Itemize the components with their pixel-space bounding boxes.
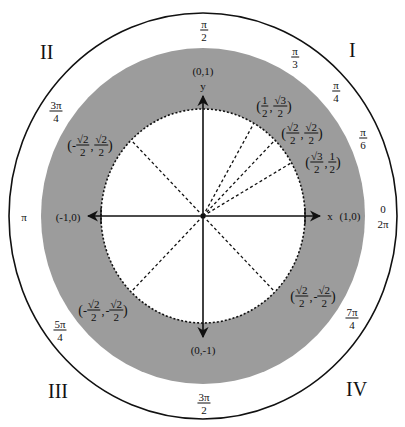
angle-3pi-over-2: 3π 2 — [197, 391, 210, 416]
origin-dot — [201, 214, 206, 219]
x-numerator: √2 — [286, 121, 300, 134]
x-denominator: 2 — [314, 163, 320, 175]
coord-45-deg: ( √22 , √22 ) — [281, 121, 322, 146]
x-denominator: 2 — [299, 297, 305, 309]
y-numerator: √2 — [95, 133, 109, 146]
angle-numerator: 3π — [49, 99, 62, 112]
coord-30-deg: ( √32 , 12 ) — [305, 150, 340, 175]
angle-7pi-over-4: 7π 4 — [345, 306, 358, 331]
angle-denominator: 4 — [57, 331, 63, 343]
x-numerator: √2 — [87, 298, 101, 311]
angle-numerator: π — [332, 79, 340, 92]
quadrant-label-iv: IV — [346, 379, 367, 399]
x-denominator: 2 — [290, 134, 296, 146]
angle-pi-over-3: π 3 — [291, 45, 299, 70]
y-denominator: 2 — [322, 297, 328, 309]
coord-315-deg: ( √22 , - √22 ) — [290, 284, 335, 309]
y-denominator: 2 — [330, 163, 336, 175]
angle-denominator: 4 — [349, 319, 355, 331]
quadrant-label-ii: II — [40, 42, 53, 62]
y-axis-label: y — [200, 81, 206, 92]
point-right: (1,0) — [339, 211, 360, 222]
angle-numerator: π — [359, 126, 367, 139]
angle-5pi-over-4: 5π 4 — [53, 318, 66, 343]
point-bottom: (0,-1) — [191, 345, 216, 356]
y-numerator: √2 — [318, 284, 332, 297]
angle-denominator: 3 — [292, 58, 298, 70]
angle-2pi: 2π — [377, 219, 388, 230]
y-denominator: 2 — [309, 134, 315, 146]
angle-3pi-over-4: 3π 4 — [49, 99, 62, 124]
angle-denominator: 2 — [201, 404, 207, 416]
point-left: (-1,0) — [56, 212, 81, 223]
angle-pi: π — [21, 212, 27, 223]
coord-225-deg: ( - √22 , - √22 ) — [78, 298, 127, 323]
y-denominator: 2 — [114, 311, 120, 323]
angle-numerator: 7π — [345, 306, 358, 319]
angle-pi-over-2: π 2 — [200, 18, 208, 43]
y-numerator: 1 — [329, 150, 337, 163]
quadrant-label-i: I — [349, 40, 356, 60]
x-denominator: 2 — [80, 146, 86, 158]
y-denominator: 2 — [277, 107, 283, 119]
x-numerator: √2 — [295, 284, 309, 297]
x-denominator: 2 — [262, 107, 268, 119]
x-denominator: 2 — [91, 311, 97, 323]
point-top: (0,1) — [192, 66, 213, 77]
angle-pi-over-6: π 6 — [359, 126, 367, 151]
angle-denominator: 2 — [201, 31, 207, 43]
angle-zero: 0 — [380, 204, 386, 215]
y-numerator: √2 — [305, 121, 319, 134]
y-numerator: √3 — [273, 94, 287, 107]
x-numerator: √2 — [76, 133, 90, 146]
coord-135-deg: ( - √22 , √22 ) — [67, 133, 112, 158]
x-numerator: 1 — [261, 94, 269, 107]
x-axis-label: x — [327, 211, 333, 222]
angle-pi-over-4: π 4 — [332, 79, 340, 104]
quadrant-label-iii: III — [48, 381, 68, 401]
angle-denominator: 4 — [53, 112, 59, 124]
angle-numerator: 5π — [53, 318, 66, 331]
angle-denominator: 6 — [360, 139, 366, 151]
coord-60-deg: ( 12 , √32 ) — [256, 94, 291, 119]
angle-denominator: 4 — [333, 92, 339, 104]
x-numerator: √3 — [310, 150, 324, 163]
angle-numerator: 3π — [197, 391, 210, 404]
y-denominator: 2 — [99, 146, 105, 158]
y-numerator: √2 — [110, 298, 124, 311]
angle-numerator: π — [200, 18, 208, 31]
angle-numerator: π — [291, 45, 299, 58]
